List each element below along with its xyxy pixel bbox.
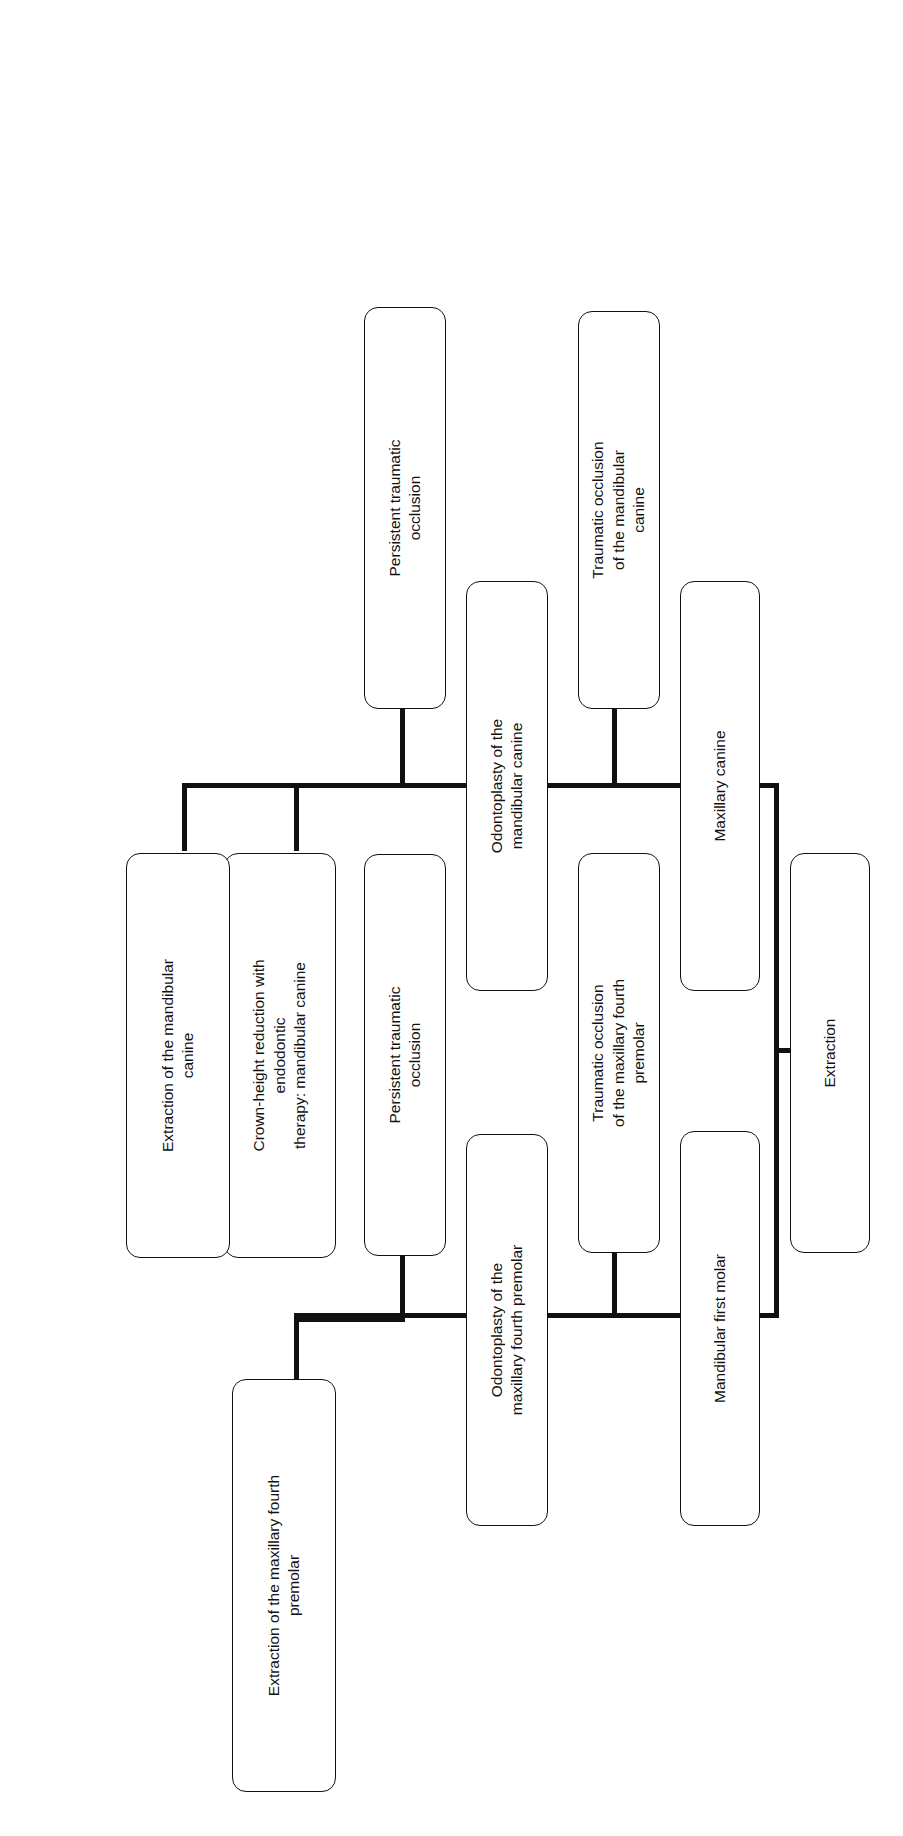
node-extraction-mandibular-line2: canine [178,1033,198,1079]
edge-root-spine-vertical [774,783,779,1318]
node-final-crown-height-line3: therapy: mandibular canine [290,962,310,1149]
node-extraction-mandibular-line1: Extraction of the mandibular [158,959,178,1152]
node-traumatic-occlusion-maxillary-line1: Traumatic occlusion [588,984,608,1121]
node-persistent-traumatic-occlusion-lower-line2: occlusion [405,476,425,541]
node-extraction[interactable]: Extraction [790,853,870,1253]
node-maxillary-canine[interactable]: Maxillary canine [680,581,760,991]
node-traumatic-occlusion-mandibular-line2: of the mandibular [609,450,629,570]
edge-upper-final-horizontal [294,1313,405,1322]
edge-upper-persistent-to-final [294,1317,299,1379]
edge-spine-to-mandibular-first-molar [757,1313,779,1318]
node-extraction-maxillary-fourth-premolar[interactable]: Extraction of the maxillary fourth premo… [232,1379,336,1792]
node-odontoplasty-mandibular-canine[interactable]: Odontoplasty of the mandibular canine [466,581,548,991]
node-traumatic-occlusion-maxillary-line3: premolar [629,1022,649,1083]
node-extraction-label: Extraction [820,1019,840,1088]
node-mandibular-first-molar-label: Mandibular first molar [710,1254,730,1403]
edge-upper-odontoplasty-to-persistent [400,1253,405,1318]
node-odontoplasty-maxillary-fourth-premolar[interactable]: Odontoplasty of the maxillary fourth pre… [466,1134,548,1526]
node-persistent-traumatic-occlusion-upper-line1: Persistent traumatic [385,987,405,1124]
node-extraction-mandibular-canine[interactable]: Extraction of the mandibular canine [126,853,230,1258]
node-final-crown-height-line1: Crown-height reduction with [249,959,269,1151]
node-traumatic-occlusion-maxillary-fourth-premolar[interactable]: Traumatic occlusion of the maxillary fou… [578,853,660,1253]
flowchart-canvas: Extraction Mandibular first molar Maxill… [0,0,903,1836]
node-odontoplasty-mandibular-line2: mandibular canine [507,723,527,850]
edge-upper-to-traumatic-occlusion [612,1250,617,1318]
node-persistent-traumatic-occlusion-upper-line2: occlusion [405,1023,425,1088]
edge-lower-odontoplasty-to-persistent [400,708,405,788]
node-extraction-maxillary-line1: Extraction of the maxillary fourth [264,1475,284,1696]
node-odontoplasty-mandibular-line1: Odontoplasty of the [487,719,507,853]
node-persistent-traumatic-occlusion-lower-line1: Persistent traumatic [385,440,405,577]
node-extraction-maxillary-line2: premolar [284,1555,304,1616]
node-traumatic-occlusion-mandibular-canine[interactable]: Traumatic occlusion of the mandibular ca… [578,311,660,709]
node-final-crown-height-line2: endodontic [270,1018,290,1094]
node-odontoplasty-maxillary-line2: maxillary fourth premolar [507,1245,527,1416]
node-mandibular-first-molar[interactable]: Mandibular first molar [680,1131,760,1526]
node-persistent-traumatic-occlusion-upper[interactable]: Persistent traumatic occlusion [364,854,446,1256]
node-traumatic-occlusion-maxillary-line2: of the maxillary fourth [609,979,629,1127]
node-persistent-traumatic-occlusion-lower-box[interactable]: Persistent traumatic occlusion [364,307,446,709]
node-final-crown-height-reduction[interactable]: Crown-height reduction with endodontic t… [224,853,336,1258]
edge-lower-persistent-to-final-a [294,785,299,851]
node-maxillary-canine-label: Maxillary canine [710,730,730,841]
edge-spine-to-maxillary-canine [757,783,779,788]
node-traumatic-occlusion-mandibular-line3: canine [629,487,649,533]
node-traumatic-occlusion-mandibular-line1: Traumatic occlusion [588,441,608,578]
edge-lower-to-traumatic-occlusion [612,708,617,788]
edge-lower-persistent-to-final-b [182,785,187,851]
edge-lower-odontoplasty-horizontal [182,783,466,788]
node-odontoplasty-maxillary-line1: Odontoplasty of the [487,1263,507,1397]
